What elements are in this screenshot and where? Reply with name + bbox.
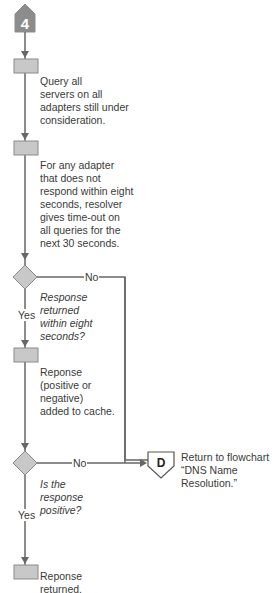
- text-line: Query all: [40, 75, 129, 88]
- text-line: next 30 seconds.: [40, 237, 133, 250]
- text-line: seconds, resolver: [40, 198, 133, 211]
- text-line: (positive or: [40, 379, 115, 392]
- text-line: negative): [40, 392, 115, 405]
- step-2-text: For any adapter that does not respond wi…: [40, 159, 133, 250]
- text-line: adapters still under: [40, 101, 129, 114]
- decision-1-text: Response returned within eight seconds?: [40, 291, 93, 343]
- text-line: returned.: [40, 583, 82, 593]
- text-line: For any adapter: [40, 159, 133, 172]
- text-line: within eight: [40, 317, 93, 330]
- process-box-1: [14, 59, 38, 73]
- end-connector: D: [148, 452, 174, 478]
- no-label-2: No: [72, 457, 87, 469]
- svg-text:D: D: [157, 456, 166, 470]
- text-line: returned: [40, 304, 93, 317]
- text-line: Is the: [40, 478, 83, 491]
- process-box-3: [14, 348, 38, 362]
- step-1-text: Query all servers on all adapters still …: [40, 75, 129, 127]
- yes-label-2: Yes: [17, 509, 36, 521]
- text-line: servers on all: [40, 88, 129, 101]
- process-box-4: [14, 565, 38, 579]
- text-line: respond within eight: [40, 185, 133, 198]
- process-box-2: [14, 141, 38, 155]
- decision-diamond-1: [13, 265, 37, 289]
- text-line: gives time-out on: [40, 211, 133, 224]
- text-line: Reponse: [40, 570, 82, 583]
- step-6-text: Reponse returned.: [40, 570, 82, 593]
- text-line: response: [40, 491, 83, 504]
- text-line: “DNS Name Resolution.”: [181, 464, 272, 490]
- end-connector-text: Return to flowchart “DNS Name Resolution…: [181, 451, 272, 490]
- step-4-text: Reponse (positive or negative) added to …: [40, 366, 115, 418]
- svg-text:4: 4: [21, 15, 30, 32]
- no-label-1: No: [84, 271, 99, 283]
- text-line: consideration.: [40, 114, 129, 127]
- text-line: that does not: [40, 172, 133, 185]
- decision-2-text: Is the response positive?: [40, 478, 83, 517]
- yes-label-1: Yes: [17, 309, 36, 321]
- text-line: all queries for the: [40, 224, 133, 237]
- text-line: added to cache.: [40, 405, 115, 418]
- text-line: Return to flowchart: [181, 451, 272, 464]
- text-line: positive?: [40, 504, 83, 517]
- text-line: seconds?: [40, 330, 93, 343]
- start-connector: 4: [15, 4, 35, 32]
- text-line: Reponse: [40, 366, 115, 379]
- text-line: Response: [40, 291, 93, 304]
- decision-diamond-2: [13, 451, 37, 475]
